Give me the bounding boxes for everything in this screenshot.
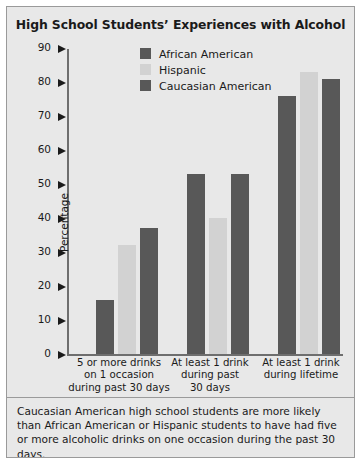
y-axis-tick-arrow-icon [58, 147, 66, 155]
bar [322, 79, 340, 354]
y-axis-tick-arrow-icon [58, 113, 66, 121]
y-axis-tick: 80 [21, 76, 67, 88]
y-axis-tick-arrow-icon [58, 45, 66, 53]
bars-layer [69, 43, 343, 354]
bar [300, 72, 318, 354]
y-axis-tick-arrow-icon [58, 317, 66, 325]
caption-divider [7, 397, 354, 398]
y-axis-tick-label: 10 [38, 313, 51, 325]
y-axis-tick-label: 0 [44, 347, 51, 359]
y-axis-tick-label: 90 [38, 41, 51, 53]
y-axis-tick-label: 50 [38, 177, 51, 189]
plot-area: Percentage 0102030405060708090 African A… [67, 43, 343, 349]
figure-caption: Caucasian American high school students … [17, 404, 345, 458]
y-axis-tick: 60 [21, 144, 67, 156]
y-axis-tick: 0 [21, 348, 67, 360]
y-axis-tick-arrow-icon [58, 249, 66, 257]
bar [187, 174, 205, 354]
y-axis-tick: 40 [21, 212, 67, 224]
x-axis-line [67, 354, 343, 356]
x-axis-category-label-line: At least 1 drink [246, 357, 355, 369]
x-axis-category-label-line: 30 days [155, 382, 265, 394]
x-axis-category-label-line: during lifetime [246, 369, 355, 381]
y-axis-tick-label: 30 [38, 245, 51, 257]
y-axis-tick-arrow-icon [58, 283, 66, 291]
y-axis-tick-arrow-icon [58, 181, 66, 189]
chart-panel: High School Students’ Experiences with A… [7, 7, 354, 397]
bar [118, 245, 136, 354]
bar [278, 96, 296, 354]
bar [209, 218, 227, 354]
chart-figure: High School Students’ Experiences with A… [6, 6, 355, 458]
y-axis-tick: 10 [21, 314, 67, 326]
y-axis-tick: 70 [21, 110, 67, 122]
x-axis-category-label: At least 1 drinkduring lifetime [246, 357, 355, 382]
y-axis-tick: 20 [21, 280, 67, 292]
y-axis-tick-arrow-icon [58, 215, 66, 223]
y-axis-tick-label: 80 [38, 75, 51, 87]
chart-title: High School Students’ Experiences with A… [7, 17, 354, 32]
y-axis-tick: 50 [21, 178, 67, 190]
x-axis-category-labels: 5 or more drinkson 1 occasionduring past… [63, 357, 353, 397]
y-axis-tick-label: 20 [38, 279, 51, 291]
y-axis-tick: 30 [21, 246, 67, 258]
bar [96, 300, 114, 354]
y-axis-tick: 90 [21, 42, 67, 54]
y-axis-tick-arrow-icon [58, 79, 66, 87]
y-axis-tick-label: 70 [38, 109, 51, 121]
bar [140, 228, 158, 354]
y-axis-tick-label: 60 [38, 143, 51, 155]
y-axis-tick-label: 40 [38, 211, 51, 223]
bar [231, 174, 249, 354]
